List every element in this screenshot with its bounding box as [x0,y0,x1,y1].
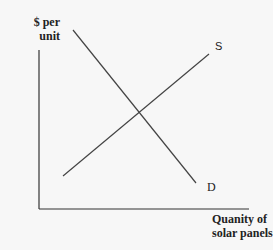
supply-curve [63,54,209,176]
x-label-line2: solar panels [212,226,273,240]
demand-curve [73,30,196,183]
y-axis-label: $ per unit [20,15,60,43]
x-label-line1: Quanity of [212,212,273,226]
supply-label: S [215,40,222,52]
demand-label: D [207,180,216,195]
y-label-line2: unit [20,29,60,43]
y-label-line1: $ per [20,15,60,29]
x-axis-label: Quanity of solar panels [212,212,273,240]
